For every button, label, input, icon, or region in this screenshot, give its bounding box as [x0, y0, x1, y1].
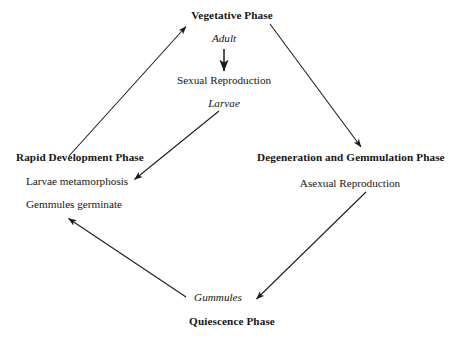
node-quiescence-phase: Quiescence Phase — [189, 316, 275, 327]
node-larvae-metamorphosis: Larvae metamorphosis — [26, 176, 128, 187]
arrow-larvae-to-larvae-metamorphosis — [135, 111, 220, 180]
node-sexual-reproduction: Sexual Reproduction — [177, 75, 271, 86]
node-vegetative-phase: Vegetative Phase — [191, 10, 273, 21]
arrow-quiescence-to-rapid-development — [69, 219, 187, 298]
node-asexual-reproduction: Asexual Reproduction — [300, 178, 400, 189]
node-degeneration-and-gemmulation-phase: Degeneration and Gemmulation Phase — [257, 152, 445, 163]
arrow-vegetative-to-degeneration — [270, 24, 361, 147]
arrow-rapid-development-to-vegetative — [69, 27, 186, 157]
arrow-degeneration-to-gummules — [257, 192, 367, 299]
node-adult: Adult — [212, 33, 236, 44]
node-gummules: Gummules — [194, 292, 242, 303]
life-cycle-diagram: Vegetative Phase Adult Sexual Reproducti… — [0, 0, 452, 342]
node-larvae: Larvae — [208, 98, 240, 109]
node-gemmules-germinate: Gemmules germinate — [26, 199, 122, 210]
node-rapid-development-phase: Rapid Development Phase — [16, 152, 144, 163]
